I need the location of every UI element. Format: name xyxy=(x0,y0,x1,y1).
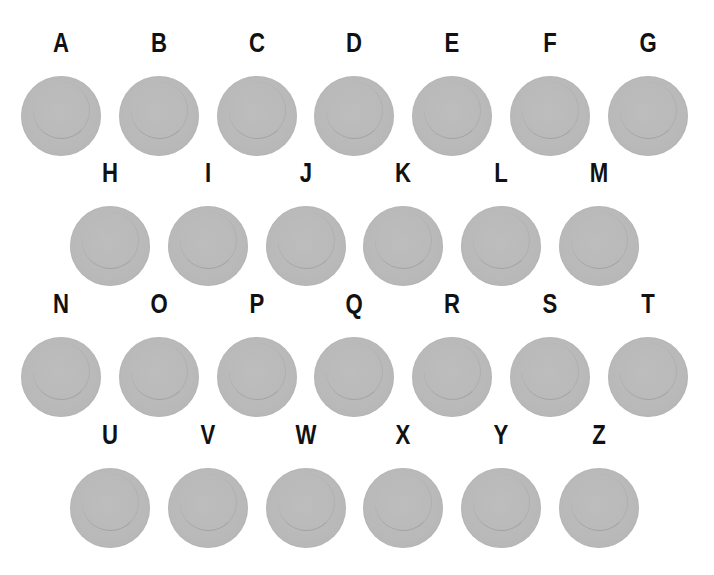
disk-item-t: T xyxy=(599,289,697,419)
gray-disk xyxy=(608,76,688,156)
disk-item-w: W xyxy=(257,420,355,550)
gray-disk xyxy=(217,76,297,156)
gray-disk xyxy=(510,76,590,156)
gray-disk xyxy=(559,206,639,286)
gray-disk xyxy=(266,206,346,286)
disk-item-b: B xyxy=(110,28,208,158)
gray-disk xyxy=(168,206,248,286)
disk-item-i: I xyxy=(159,158,257,288)
gray-disk xyxy=(412,337,492,417)
gray-disk xyxy=(608,337,688,417)
disk-label: A xyxy=(21,28,101,58)
disk-label: I xyxy=(168,158,248,188)
disk-item-n: N xyxy=(12,289,110,419)
gray-disk xyxy=(461,206,541,286)
disk-label: V xyxy=(168,420,248,450)
disk-item-r: R xyxy=(403,289,501,419)
gray-disk xyxy=(119,337,199,417)
gray-disk xyxy=(314,337,394,417)
gray-disk xyxy=(21,76,101,156)
disk-label: M xyxy=(559,158,639,188)
disk-item-e: E xyxy=(403,28,501,158)
disk-item-d: D xyxy=(305,28,403,158)
gray-disk xyxy=(314,76,394,156)
disk-item-g: G xyxy=(599,28,697,158)
disk-label: Y xyxy=(461,420,541,450)
disk-label: F xyxy=(510,28,590,58)
disk-item-q: Q xyxy=(305,289,403,419)
gray-disk xyxy=(70,206,150,286)
disk-item-z: Z xyxy=(550,420,648,550)
disk-item-k: K xyxy=(354,158,452,288)
disk-item-v: V xyxy=(159,420,257,550)
disk-label: E xyxy=(412,28,492,58)
disk-item-l: L xyxy=(452,158,550,288)
disk-item-u: U xyxy=(61,420,159,550)
disk-label: D xyxy=(314,28,394,58)
disk-item-a: A xyxy=(12,28,110,158)
disk-label: G xyxy=(608,28,688,58)
disk-label: U xyxy=(70,420,150,450)
disk-label: Q xyxy=(314,289,394,319)
gray-disk xyxy=(217,337,297,417)
disk-item-s: S xyxy=(501,289,599,419)
disk-label: K xyxy=(363,158,443,188)
disk-label: C xyxy=(216,28,296,58)
gray-disk xyxy=(461,468,541,548)
disk-label: L xyxy=(461,158,541,188)
disk-label: T xyxy=(608,289,688,319)
gray-disk xyxy=(412,76,492,156)
disk-item-p: P xyxy=(208,289,306,419)
disk-label: R xyxy=(412,289,492,319)
disk-label: W xyxy=(265,420,345,450)
gray-disk xyxy=(363,468,443,548)
disk-item-c: C xyxy=(208,28,306,158)
disk-label: Z xyxy=(559,420,639,450)
disk-item-f: F xyxy=(501,28,599,158)
disk-item-o: O xyxy=(110,289,208,419)
disk-item-m: M xyxy=(550,158,648,288)
gray-disk xyxy=(21,337,101,417)
gray-disk xyxy=(70,468,150,548)
disk-item-x: X xyxy=(354,420,452,550)
disk-label: O xyxy=(119,289,199,319)
gray-disk xyxy=(266,468,346,548)
disk-item-j: J xyxy=(257,158,355,288)
disk-label: N xyxy=(21,289,101,319)
disk-label: P xyxy=(216,289,296,319)
gray-disk xyxy=(510,337,590,417)
gray-disk xyxy=(168,468,248,548)
disk-label: H xyxy=(70,158,150,188)
disk-item-h: H xyxy=(61,158,159,288)
disk-label: B xyxy=(119,28,199,58)
gray-disk xyxy=(119,76,199,156)
gray-disk xyxy=(559,468,639,548)
disk-label: X xyxy=(363,420,443,450)
gray-disk xyxy=(363,206,443,286)
disk-label: J xyxy=(265,158,345,188)
disk-label: S xyxy=(510,289,590,319)
disk-item-y: Y xyxy=(452,420,550,550)
